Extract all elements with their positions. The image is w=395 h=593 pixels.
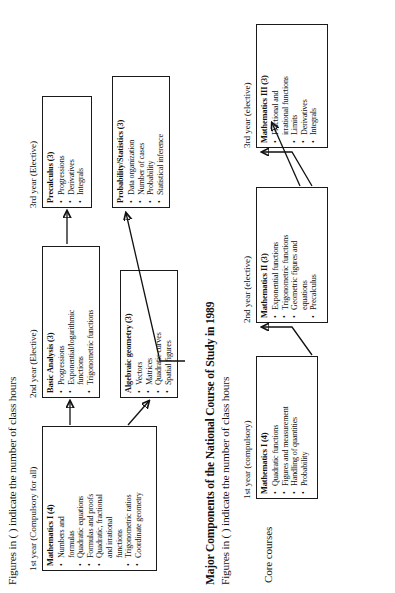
top-flowchart-arrows (0, 0, 200, 593)
top-flowchart: Figures in ( ) indicate the number of cl… (0, 0, 200, 593)
arrow-mathii-to-upper-right (272, 123, 300, 186)
bottom-flowchart-arrows (200, 0, 395, 593)
arrow-algebraicgeometry-to-probability (126, 213, 185, 361)
bottom-flowchart: Major Components of the National Course … (200, 0, 395, 593)
arrow-mathi-to-algebraicgeometry (128, 401, 149, 425)
diagram-canvas: Figures in ( ) indicate the number of cl… (0, 0, 395, 593)
arrow-mathi-to-mathii (262, 327, 312, 355)
